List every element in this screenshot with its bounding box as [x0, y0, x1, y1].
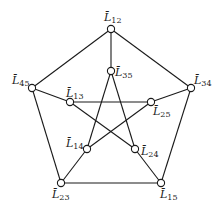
edge-L34-L15 [161, 88, 191, 183]
node-L35 [107, 67, 114, 74]
node-label-L12: L̄12 [103, 11, 122, 25]
edge-L25-L14 [87, 102, 151, 149]
node-label-L23: L̄23 [51, 188, 70, 202]
node-label-L24: L̄24 [140, 145, 159, 159]
node-label-L14: L̄14 [65, 137, 84, 151]
edge-L45-L13 [32, 88, 70, 102]
node-label-L15: L̄15 [159, 188, 178, 202]
node-L12 [107, 25, 114, 32]
node-label-L25: L̄25 [152, 105, 171, 119]
edge-L23-L45 [32, 88, 61, 183]
node-label-L34: L̄34 [193, 74, 212, 88]
edge-L45-L12 [32, 29, 111, 88]
node-label-L35: L̄35 [114, 66, 133, 80]
node-L24 [131, 145, 138, 152]
node-L23 [57, 179, 64, 186]
node-label-L45: L̄45 [11, 74, 30, 88]
edge-L23-L14 [61, 149, 87, 183]
edge-L34-L25 [151, 88, 191, 102]
node-label-L13: L̄13 [65, 87, 84, 101]
petersen-graph-diagram: L̄12L̄35L̄45L̄34L̄13L̄25L̄14L̄24L̄23L̄15 [0, 0, 222, 209]
node-L15 [157, 179, 164, 186]
node-L14 [83, 145, 90, 152]
edge-L35-L14 [87, 71, 111, 149]
edges-group [32, 29, 191, 183]
edge-L35-L24 [111, 71, 135, 149]
